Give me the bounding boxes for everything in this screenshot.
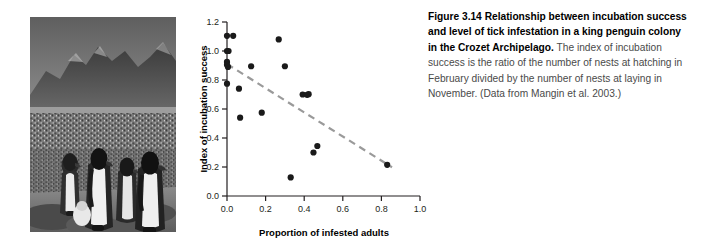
scatter-point <box>224 33 230 39</box>
scatter-point <box>230 33 236 39</box>
scatter-point <box>259 110 265 116</box>
scatter-chart: 0.00.20.40.60.81.01.2 0.00.20.40.60.81.0… <box>196 8 436 246</box>
figure-label: Figure 3.14 <box>428 11 482 22</box>
trend-line-segment <box>227 64 392 167</box>
x-tick-label: 0.2 <box>259 204 272 214</box>
x-tick-label: 0.8 <box>375 204 388 214</box>
scatter-point <box>288 174 294 180</box>
scatter-points <box>224 33 390 181</box>
x-tick-label: 0.4 <box>298 204 311 214</box>
y-tick-label: 0.0 <box>206 191 219 201</box>
x-axis-title: Proportion of infested adults <box>259 227 389 238</box>
figure-root: 0.00.20.40.60.81.01.2 0.00.20.40.60.81.0… <box>0 0 702 246</box>
scatter-point <box>225 48 231 54</box>
scatter-point <box>248 63 254 69</box>
y-axis-title: Index of incubation success <box>198 45 209 172</box>
scatter-point <box>225 64 231 70</box>
scatter-point <box>236 86 242 92</box>
x-tick-label: 0.6 <box>337 204 350 214</box>
trend-line <box>227 64 392 167</box>
scatter-point <box>306 91 312 97</box>
scatter-point <box>276 36 282 42</box>
scatter-point <box>384 162 390 168</box>
scatter-point <box>310 149 316 155</box>
scatter-point <box>282 63 288 69</box>
x-axis-ticks <box>227 196 420 201</box>
king-penguin-colony-photo <box>30 17 176 232</box>
scatter-point <box>237 115 243 121</box>
y-tick-label: 1.2 <box>206 17 219 27</box>
x-tick-label: 1.0 <box>414 204 427 214</box>
scatter-point <box>224 81 230 87</box>
scatter-point <box>314 143 320 149</box>
figure-caption: Figure 3.14 Relationship between incubat… <box>428 9 690 101</box>
x-axis-tick-labels: 0.00.20.40.60.81.0 <box>221 204 427 214</box>
x-tick-label: 0.0 <box>221 204 234 214</box>
